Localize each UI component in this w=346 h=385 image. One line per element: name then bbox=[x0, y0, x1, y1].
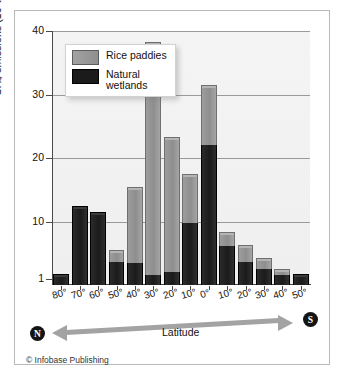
copyright-credit: © Infobase Publishing bbox=[26, 355, 109, 365]
x-axis-ticks: 80°70°60°50°40°30°20°10°0°10°20°30°40°50… bbox=[52, 286, 310, 308]
x-tick-label-1: 70° bbox=[69, 286, 87, 301]
bar-segment-rice-paddies bbox=[201, 88, 217, 145]
bar-9 bbox=[219, 235, 235, 285]
bar-10 bbox=[238, 248, 254, 285]
bar-0 bbox=[53, 277, 69, 285]
bar-segment-natural-wetlands bbox=[219, 246, 235, 285]
y-axis-title: CH4 emissions (106t) bbox=[0, 0, 4, 96]
y-axis-title-end: t) bbox=[0, 0, 3, 3]
bar-3 bbox=[109, 253, 125, 285]
north-badge-icon: N bbox=[30, 326, 45, 341]
x-tick-label-10: 20° bbox=[235, 286, 253, 301]
bar-segment-natural-wetlands bbox=[127, 263, 143, 285]
bar-top-face bbox=[127, 187, 143, 190]
latitude-axis-arrow: N S Latitude bbox=[30, 318, 320, 348]
bar-segment-natural-wetlands bbox=[182, 223, 198, 285]
bar-top-face bbox=[109, 250, 125, 253]
bar-segment-natural-wetlands bbox=[90, 215, 106, 285]
bar-segment-rice-paddies bbox=[164, 140, 180, 272]
legend-item-natural-wetlands: Natural wetlands bbox=[72, 69, 167, 90]
x-tick-label-12: 40° bbox=[272, 286, 290, 301]
bar-top-face bbox=[256, 258, 272, 261]
x-tick-label-4: 40° bbox=[125, 286, 143, 301]
legend-swatch-natural-wetlands bbox=[72, 69, 99, 84]
bar-1 bbox=[72, 209, 88, 285]
bar-top-face bbox=[164, 137, 180, 140]
bar-top-face bbox=[90, 212, 106, 215]
bar-4 bbox=[127, 190, 143, 285]
x-tick-label-7: 10° bbox=[180, 286, 198, 301]
bar-segment-rice-paddies bbox=[127, 190, 143, 264]
x-axis-title: Latitude bbox=[162, 326, 199, 338]
legend: Rice paddies Natural wetlands bbox=[65, 44, 176, 97]
bar-segment-natural-wetlands bbox=[164, 272, 180, 285]
bar-top-face bbox=[53, 274, 69, 277]
bar-segment-rice-paddies bbox=[219, 235, 235, 245]
legend-item-rice-paddies: Rice paddies bbox=[72, 50, 167, 65]
bar-segment-natural-wetlands bbox=[256, 269, 272, 286]
bar-segment-rice-paddies bbox=[256, 261, 272, 269]
bar-2 bbox=[90, 215, 106, 285]
south-badge-icon: S bbox=[303, 312, 318, 327]
bar-top-face bbox=[238, 245, 254, 248]
bar-top-face bbox=[182, 174, 198, 177]
bar-top-face bbox=[201, 85, 217, 88]
arrow-head-east-icon bbox=[278, 315, 293, 331]
bar-top-face bbox=[293, 274, 309, 277]
bar-segment-rice-paddies bbox=[238, 248, 254, 263]
x-tick-label-9: 10° bbox=[217, 286, 235, 301]
bar-segment-natural-wetlands bbox=[145, 275, 161, 285]
x-tick-label-2: 60° bbox=[88, 286, 106, 301]
bar-segment-natural-wetlands bbox=[72, 209, 88, 285]
bar-segment-natural-wetlands bbox=[238, 262, 254, 285]
bar-top-face bbox=[219, 232, 235, 235]
arrow-head-west-icon bbox=[52, 325, 67, 341]
bar-top-face bbox=[274, 269, 290, 272]
y-tick-label-20: 20 bbox=[18, 152, 44, 162]
x-tick-label-5: 30° bbox=[143, 286, 161, 301]
x-tick-label-11: 30° bbox=[254, 286, 272, 301]
legend-label-natural-wetlands: Natural wetlands bbox=[106, 69, 147, 90]
y-axis-title-rest: emissions (10 bbox=[0, 7, 3, 76]
bar-12 bbox=[274, 272, 290, 285]
bar-segment-rice-paddies bbox=[182, 177, 198, 223]
bar-segment-natural-wetlands bbox=[274, 275, 290, 285]
x-tick-label-13: 50° bbox=[291, 286, 309, 301]
legend-label-rice-paddies: Rice paddies bbox=[106, 50, 167, 61]
chart-figure: 403020101 CH4 emissions (106t) 80°70°60°… bbox=[0, 0, 346, 385]
bar-6 bbox=[164, 140, 180, 285]
bar-11 bbox=[256, 261, 272, 285]
bar-segment-natural-wetlands bbox=[293, 277, 309, 285]
bar-segment-natural-wetlands bbox=[201, 145, 217, 285]
bar-segment-natural-wetlands bbox=[53, 277, 69, 285]
bar-top-face bbox=[72, 206, 88, 209]
x-tick-label-6: 20° bbox=[162, 286, 180, 301]
x-tick-label-0: 80° bbox=[51, 286, 69, 301]
y-tick-label-40: 40 bbox=[18, 25, 44, 35]
y-axis-title-ch: CH bbox=[0, 81, 3, 96]
y-tick-label-30: 30 bbox=[18, 89, 44, 99]
y-axis-title-subscript: 4 bbox=[0, 76, 4, 80]
bar-13 bbox=[293, 277, 309, 285]
y-tick-label-1: 1 bbox=[18, 273, 44, 283]
legend-swatch-rice-paddies bbox=[72, 50, 99, 65]
bar-7 bbox=[182, 177, 198, 285]
bar-segment-rice-paddies bbox=[109, 253, 125, 261]
bar-segment-rice-paddies bbox=[274, 272, 290, 275]
x-tick-label-8: 0° bbox=[198, 287, 210, 300]
y-tick-label-10: 10 bbox=[18, 216, 44, 226]
x-tick-label-3: 50° bbox=[106, 286, 124, 301]
bar-8 bbox=[201, 88, 217, 285]
bar-segment-natural-wetlands bbox=[109, 262, 125, 285]
